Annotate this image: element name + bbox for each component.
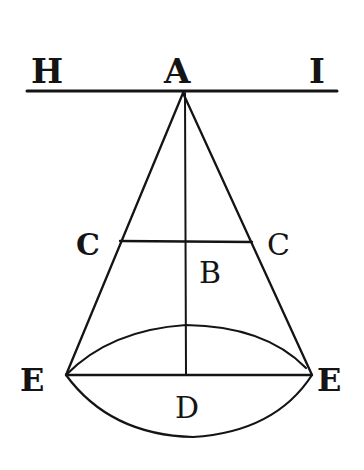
label-C-right: C [267,227,290,262]
label-D: D [175,390,199,425]
label-E-right: E [317,361,341,399]
label-B: B [199,255,221,290]
label-H: H [31,51,63,91]
label-E-left: E [20,361,44,399]
section-CC [120,241,252,242]
label-C-left: C [76,227,100,262]
label-A: A [163,51,191,91]
axis-AD [185,93,186,375]
cone-diagram: H A I C C B E E D [0,0,364,470]
label-I: I [309,51,325,91]
